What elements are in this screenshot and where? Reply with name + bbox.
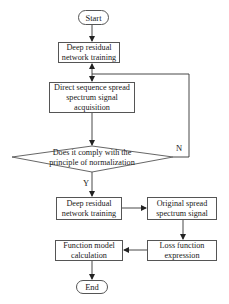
no-branch-label: N bbox=[176, 144, 182, 153]
step3-label: Deep residual network training bbox=[59, 199, 119, 219]
yes-branch-label: Y bbox=[83, 179, 89, 188]
end-terminal: End bbox=[76, 280, 108, 294]
step-function-model-calculation: Function model calculation bbox=[55, 240, 123, 261]
step2-label: Direct sequence spread spectrum signal a… bbox=[52, 83, 132, 113]
step-deep-residual-training-1: Deep residual network training bbox=[58, 42, 120, 63]
end-label: End bbox=[85, 282, 99, 292]
start-terminal: Start bbox=[78, 10, 109, 25]
decision-label: Does it comply with the principle of nor… bbox=[44, 148, 140, 168]
step1-label: Deep residual network training bbox=[61, 43, 117, 63]
step4-label: Original spread spectrum signal bbox=[150, 199, 214, 219]
start-label: Start bbox=[85, 13, 101, 23]
step-dsss-signal-acquisition: Direct sequence spread spectrum signal a… bbox=[49, 82, 135, 113]
step-deep-residual-training-2: Deep residual network training bbox=[56, 197, 122, 220]
step-loss-function-expression: Loss function expression bbox=[147, 240, 217, 261]
step6-label: Function model calculation bbox=[58, 241, 120, 261]
step5-label: Loss function expression bbox=[150, 241, 214, 261]
step-original-spread-spectrum-signal: Original spread spectrum signal bbox=[147, 197, 217, 220]
